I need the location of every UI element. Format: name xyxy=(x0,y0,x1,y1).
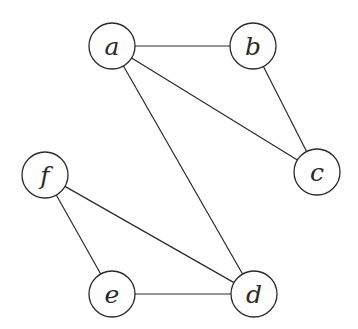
node-a: a xyxy=(89,23,135,69)
edges-layer xyxy=(56,46,306,294)
node-c: c xyxy=(294,149,340,195)
node-label: a xyxy=(105,32,120,61)
node-label: d xyxy=(246,280,262,309)
node-f: f xyxy=(22,152,68,198)
node-label: c xyxy=(310,158,324,187)
nodes-layer: abcdef xyxy=(22,23,340,317)
node-label: b xyxy=(245,32,261,61)
edge-f-e xyxy=(56,195,100,274)
node-e: e xyxy=(89,271,135,317)
edge-a-d xyxy=(123,66,242,274)
edge-a-c xyxy=(132,58,298,160)
node-d: d xyxy=(231,271,277,317)
graph-diagram: abcdef xyxy=(0,0,358,329)
edge-f-d xyxy=(65,186,234,282)
node-label: e xyxy=(105,280,120,309)
edge-b-c xyxy=(263,67,306,152)
node-b: b xyxy=(230,23,276,69)
